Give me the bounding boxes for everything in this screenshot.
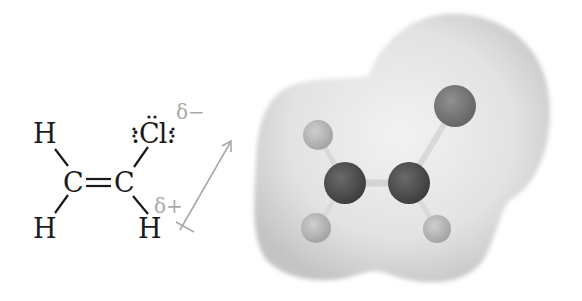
model-atom-carbon-left [324,162,366,204]
electron-cloud-surface [254,14,550,283]
model-atom-carbon-right [388,162,430,204]
model-atom-hydrogen-bottom-right [423,215,451,243]
electron-density-model [0,0,582,301]
model-atom-chlorine [434,85,476,127]
chloroethene-figure: H C H C :Cl: H δ− δ+ [0,0,582,301]
model-atom-hydrogen-bottom-left [301,213,331,243]
model-atom-hydrogen-top-left [303,120,333,150]
